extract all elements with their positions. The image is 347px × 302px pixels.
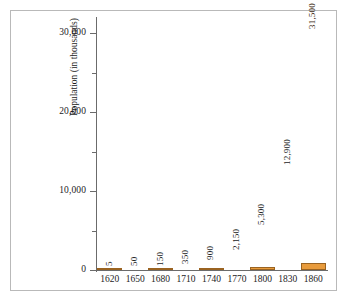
bar-value-label: 150 — [155, 251, 165, 265]
x-tick-label: 1650 — [122, 274, 147, 284]
bar-value-label: 2,150 — [231, 229, 241, 250]
y-tick-major — [90, 191, 97, 192]
x-tick-label: 1740 — [199, 274, 224, 284]
x-tick-label: 1860 — [301, 274, 326, 284]
bar-group: 31,500 — [301, 19, 326, 270]
y-tick-label: 20,000 — [26, 106, 86, 116]
bar-value-label: 12,900 — [282, 139, 292, 165]
bar-value-label: 5,300 — [256, 204, 266, 225]
bar-group: 900 — [199, 19, 224, 270]
y-tick-label: 10,000 — [26, 185, 86, 195]
bar-group: 12,900 — [275, 19, 300, 270]
bar-group: 150 — [148, 19, 173, 270]
plot-area: 5501503509002,1505,30012,90031,500 — [97, 19, 326, 270]
x-tick-label: 1620 — [97, 274, 122, 284]
y-tick-label: 0 — [26, 264, 86, 274]
x-tick-label: 1680 — [148, 274, 173, 284]
y-tick-major — [90, 112, 97, 113]
bar-group: 5 — [97, 19, 122, 270]
bar-value-label: 31,500 — [307, 3, 317, 29]
bar-value-label: 5 — [104, 261, 114, 266]
bar-value-label: 50 — [129, 256, 139, 265]
bar-group: 50 — [122, 19, 147, 270]
bar-group: 5,300 — [250, 19, 275, 270]
bar-group: 350 — [173, 19, 198, 270]
y-tick-label: 30,000 — [26, 27, 86, 37]
x-tick-label: 1830 — [275, 274, 300, 284]
x-tick-label: 1710 — [173, 274, 198, 284]
bar-group: 2,150 — [224, 19, 249, 270]
bar — [97, 268, 122, 270]
x-tick-label: 1800 — [250, 274, 275, 284]
y-tick-major — [90, 33, 97, 34]
y-tick-major — [90, 270, 97, 271]
y-axis-label: Population (in thousands) — [67, 0, 81, 147]
bar-value-label: 350 — [180, 250, 190, 264]
bar-value-label: 900 — [205, 246, 215, 260]
x-tick-label: 1770 — [224, 274, 249, 284]
chart-page: Population (in thousands) 010,00020,0003… — [0, 0, 347, 302]
x-axis-line — [96, 270, 328, 271]
